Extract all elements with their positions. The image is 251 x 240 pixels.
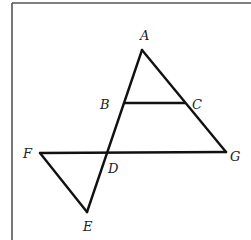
segment-AE <box>87 50 142 212</box>
point-label-C: C <box>192 97 202 112</box>
point-label-E: E <box>82 219 93 234</box>
geometry-diagram: A B C D F G E <box>0 0 251 240</box>
point-label-A: A <box>139 28 149 43</box>
point-label-D: D <box>107 161 119 176</box>
segment-FG <box>40 152 226 153</box>
point-label-B: B <box>99 97 110 112</box>
point-label-G: G <box>230 149 240 164</box>
point-label-F: F <box>22 146 33 161</box>
segment-FE <box>40 153 87 212</box>
segment-AG <box>142 50 226 152</box>
